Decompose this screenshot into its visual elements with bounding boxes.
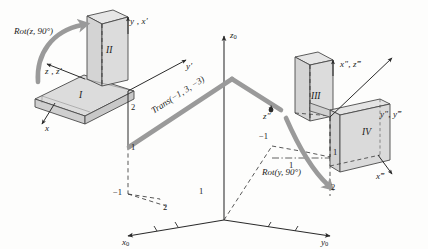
axis-label-z0: z0 xyxy=(230,31,237,41)
frame-label-yprime: y′ xyxy=(186,62,192,71)
block-label-IV: IV xyxy=(362,128,371,138)
tick-label-right-1: 1 xyxy=(333,148,337,157)
tick-label-left-1: 1 xyxy=(131,143,135,152)
world-axis-y0 xyxy=(224,220,330,236)
frame-label-x: x xyxy=(45,124,49,133)
block-label-III: III xyxy=(311,92,321,102)
tick-label-y0-neg1: −1 xyxy=(259,132,268,141)
tick-label-x0-2: 2 xyxy=(163,203,167,212)
axis-label-x0: x0 xyxy=(122,238,129,248)
projection-lines-right xyxy=(224,146,330,220)
frame-label-ydprime-ytprime: y″, y‴ xyxy=(380,110,401,119)
tick-label-right-2: 2 xyxy=(331,183,335,192)
axis-label-x0-sub: 0 xyxy=(126,240,129,247)
frame-label-zdprime: z″ xyxy=(263,112,271,121)
projection-lines-left xyxy=(128,146,166,206)
tick-label-y0-1: 1 xyxy=(289,161,293,170)
block-label-II: II xyxy=(106,46,112,56)
world-axis-x0 xyxy=(128,220,224,236)
axis-label-z0-sub: 0 xyxy=(234,33,237,40)
frame-label-y-xprime: y , x′ xyxy=(130,17,148,26)
axis-label-y0-sub: 0 xyxy=(325,240,328,247)
left-frame-axis-yp xyxy=(128,60,186,91)
axis-label-y0: y0 xyxy=(321,238,328,248)
operation-label-rot-y: Rot(y, 90°) xyxy=(262,168,301,177)
tick-label-left-2: 2 xyxy=(131,103,135,112)
frame-label-xdprime-ztprime: x″, z‴ xyxy=(340,60,361,69)
frame-label-xtprime: x‴ xyxy=(376,172,384,181)
frame-label-z-zprime: z , z′ xyxy=(45,67,62,76)
tick-label-x0-neg1: −1 xyxy=(113,188,122,197)
tick-label-x0-1: 1 xyxy=(199,187,203,196)
figure-canvas: Rot(z, 90°) Trans(−1, 3, −3) Rot(y, 90°)… xyxy=(0,0,428,249)
operation-label-rot-z: Rot(z, 90°) xyxy=(14,27,53,36)
block-label-I: I xyxy=(79,91,82,101)
diagram-vector-layer xyxy=(0,0,428,249)
